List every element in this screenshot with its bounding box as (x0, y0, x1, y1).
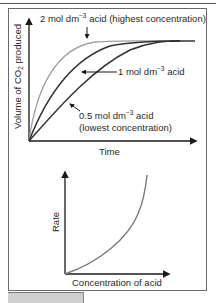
y-axis-label-rate: Rate (50, 212, 61, 232)
label-0-5mol-line2: (lowest concentration) (79, 122, 172, 133)
label-2mol: 2 mol dm−3 acid (highest concentration) (40, 12, 206, 24)
rate-curve (65, 175, 147, 274)
label-1mol: 1 mol dm−3 acid (118, 65, 185, 77)
rate-concentration-chart: Concentration of acid Rate (50, 172, 169, 288)
x-axis-label-concentration: Concentration of acid (72, 277, 162, 288)
volume-time-chart: 2 mol dm−3 acid (highest concentration) … (12, 12, 206, 157)
x-axis-label-time: Time (99, 146, 120, 157)
y-axis-label-volume: Volume of CO2 produced (12, 24, 24, 129)
label-0-5mol: 0.5 mol dm−3 acid (79, 109, 154, 121)
